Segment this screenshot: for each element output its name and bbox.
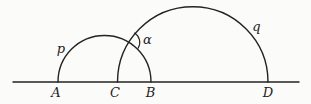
geometry-diagram: A C B D p q α <box>0 0 311 104</box>
point-label-d: D <box>262 85 274 100</box>
point-label-b: B <box>145 85 156 100</box>
point-label-c: C <box>110 85 120 100</box>
point-label-a: A <box>50 85 60 100</box>
arc-label-q: q <box>252 19 260 34</box>
angle-label-alpha: α <box>143 32 152 47</box>
geometry-figure: A C B D p q α <box>0 0 311 104</box>
arc-label-p: p <box>57 41 66 56</box>
